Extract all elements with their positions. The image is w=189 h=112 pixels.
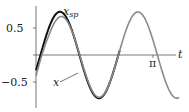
x-axis-label: t: [178, 48, 183, 61]
y-tick-label-0.5: 0.5: [6, 22, 24, 35]
chart: 0.5 −0.5 π t xsp x: [0, 0, 189, 112]
y-tick-label-neg-0.5: −0.5: [1, 76, 28, 89]
x-label-leader: [60, 73, 78, 82]
x-label: x: [53, 76, 60, 89]
xsp-label: xsp: [63, 5, 78, 19]
plot-svg: 0.5 −0.5 π t xsp x: [0, 0, 189, 112]
x-tick-label-pi: π: [149, 57, 156, 70]
